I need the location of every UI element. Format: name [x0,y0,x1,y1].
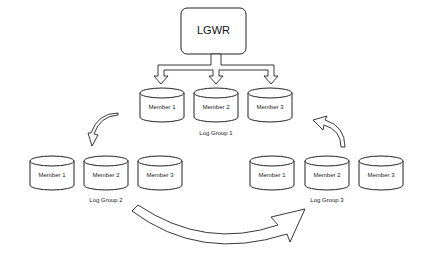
group2-label: Log Group 2 [74,197,138,203]
group2-member2: Member 2 [84,172,128,178]
group3-member2: Member 2 [305,172,349,178]
switch-arrow-1-to-2 [88,113,118,146]
group2-member1: Member 1 [30,172,74,178]
group2-member3: Member 3 [138,172,182,178]
lgwr-fanout-arrows [154,54,278,84]
switch-arrow-3-to-1 [313,116,345,147]
group1-member1: Member 1 [140,104,184,110]
group3-label: Log Group 3 [295,197,359,203]
switch-arrow-2-to-3 [132,205,305,244]
group3-member1: Member 1 [250,172,294,178]
lgwr-label: LGWR [181,24,246,36]
group1-label: Log Group 1 [184,130,248,136]
group1-member3: Member 3 [248,104,292,110]
diagram-canvas [0,0,426,274]
group1-member2: Member 2 [194,104,238,110]
group3-member3: Member 3 [359,172,403,178]
